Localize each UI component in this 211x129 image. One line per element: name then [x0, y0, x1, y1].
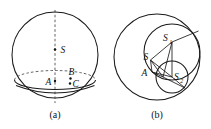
caption-panel-a: (a) [49, 109, 60, 121]
outer-circle [114, 14, 200, 100]
point-C-marker [69, 82, 71, 84]
figure-canvas: S A B C (a) [0, 0, 211, 129]
caption-panel-b: (b) [151, 109, 163, 121]
label-S-panel-b: S [144, 52, 149, 62]
point-A-marker [54, 80, 56, 82]
point-B-marker [69, 77, 71, 79]
label-S2-subscript: 2 [180, 78, 183, 84]
label-S2: S [174, 72, 179, 82]
panel-b: S 1 S 2 S A (b) [114, 14, 200, 121]
label-A: A [45, 77, 52, 87]
label-C: C [73, 79, 80, 89]
label-S2-group: S 2 [174, 72, 183, 84]
label-S1: S [163, 33, 168, 43]
figure-container: S A B C (a) [0, 0, 211, 129]
segment-S1-to-S [151, 42, 173, 60]
label-S1-group: S 1 [163, 33, 172, 45]
label-S: S [61, 45, 66, 55]
segment-S1-to-lower [163, 42, 172, 77]
label-A-panel-b: A [141, 68, 148, 78]
panel-a: S A B C (a) [12, 10, 98, 121]
point-S-marker [54, 48, 57, 51]
label-S1-subscript: 1 [169, 39, 172, 45]
label-B: B [69, 67, 75, 77]
